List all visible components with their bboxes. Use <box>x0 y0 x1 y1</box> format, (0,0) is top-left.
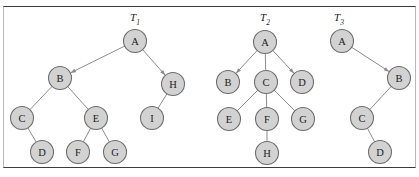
tree-node-T2-A[interactable]: A <box>254 31 277 54</box>
tree-node-T2-H[interactable]: H <box>256 142 279 165</box>
node-label: F <box>75 147 81 158</box>
tree-node-T2-B[interactable]: B <box>217 71 240 94</box>
node-label: G <box>299 114 307 125</box>
arrowhead-icon <box>384 67 390 72</box>
tree-edge-T1-C-D <box>28 128 36 142</box>
tree-title-T1: T1 <box>130 11 140 26</box>
tree-edge-T1-E-F <box>83 128 90 142</box>
tree-edge-T3-C-D <box>367 128 374 142</box>
node-label: D <box>38 147 46 158</box>
node-label: B <box>395 73 402 84</box>
node-label: E <box>226 114 232 125</box>
tree-edge-T1-A-B <box>70 46 124 73</box>
tree-node-T3-C[interactable]: C <box>351 107 374 130</box>
tree-title-subscript: 3 <box>340 18 344 27</box>
tree-edge-T2-C-G <box>274 90 295 111</box>
tree-edge-T1-H-I <box>158 94 167 108</box>
tree-node-T1-C[interactable]: C <box>11 107 34 130</box>
tree-edge-T1-B-E <box>68 87 89 110</box>
tree-node-T2-F[interactable]: F <box>256 108 279 131</box>
tree-edge-T1-E-G <box>102 128 110 142</box>
arrowhead-icon <box>70 69 76 73</box>
tree-edge-T3-A-B <box>352 47 390 71</box>
tree-node-T1-G[interactable]: G <box>104 141 127 164</box>
tree-node-T1-B[interactable]: B <box>49 67 72 90</box>
tree-node-T3-D[interactable]: D <box>369 141 392 164</box>
tree-node-T1-H[interactable]: H <box>162 73 185 96</box>
tree-node-T3-B[interactable]: B <box>388 67 411 90</box>
tree-node-T1-D[interactable]: D <box>31 141 54 164</box>
tree-node-T3-A[interactable]: A <box>331 30 354 53</box>
tree-node-T2-E[interactable]: E <box>218 108 241 131</box>
node-label: A <box>261 37 269 48</box>
node-label: D <box>298 77 306 88</box>
node-label: C <box>18 113 25 124</box>
node-label: A <box>131 36 139 47</box>
tree-node-T2-D[interactable]: D <box>291 71 314 94</box>
node-label: E <box>93 113 99 124</box>
tree-title-subscript: 1 <box>136 18 140 27</box>
edges-layer <box>28 46 391 142</box>
node-label: G <box>111 147 119 158</box>
tree-canvas: ABHCEIDFGABCDEFGHABCD <box>0 0 419 177</box>
tree-node-T2-C[interactable]: C <box>255 71 278 94</box>
node-label: C <box>262 77 269 88</box>
node-label: D <box>376 147 384 158</box>
node-label: C <box>358 113 365 124</box>
tree-title-subscript: 2 <box>266 18 270 27</box>
node-label: F <box>264 114 270 125</box>
node-label: A <box>338 36 346 47</box>
tree-node-T1-I[interactable]: I <box>141 107 164 130</box>
tree-figure: ABHCEIDFGABCDEFGHABCD T1T2T3 <box>0 0 419 177</box>
tree-node-T1-F[interactable]: F <box>67 141 90 164</box>
node-label: I <box>150 113 154 124</box>
tree-node-T1-E[interactable]: E <box>85 107 108 130</box>
tree-edge-T3-B-C <box>370 86 391 109</box>
node-label: B <box>224 77 231 88</box>
node-label: B <box>56 73 63 84</box>
tree-edge-T2-C-E <box>237 90 258 111</box>
nodes-layer: ABHCEIDFGABCDEFGHABCD <box>11 30 411 165</box>
tree-edge-T1-B-C <box>30 86 52 109</box>
node-label: H <box>263 148 271 159</box>
node-label: H <box>169 79 177 90</box>
tree-node-T2-G[interactable]: G <box>292 108 315 131</box>
tree-node-T1-A[interactable]: A <box>124 30 147 53</box>
tree-title-T3: T3 <box>334 11 344 26</box>
tree-title-T2: T2 <box>260 11 270 26</box>
